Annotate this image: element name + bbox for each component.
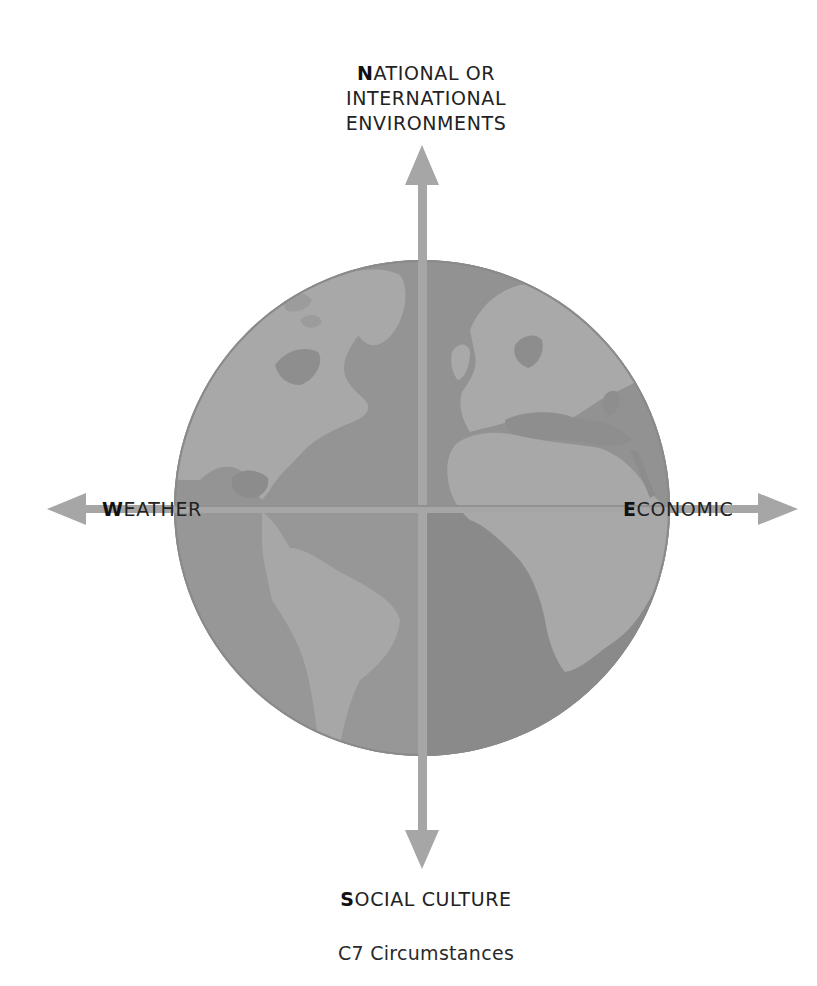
label-west-initial: W: [102, 498, 124, 520]
label-north-line1: ATIONAL OR: [373, 62, 495, 84]
arrow-down-icon: [405, 830, 439, 869]
arrow-left-icon: [47, 493, 86, 525]
label-economic: ECONOMIC: [623, 497, 733, 522]
label-north-line2: INTERNATIONAL: [0, 86, 817, 111]
label-east-initial: E: [623, 498, 637, 520]
label-west-rest: EATHER: [124, 498, 202, 520]
diagram-caption: C7 Circumstances: [0, 942, 817, 964]
label-east-rest: CONOMIC: [637, 498, 734, 520]
label-north-line3: ENVIRONMENTS: [0, 111, 817, 136]
arrow-up-icon: [405, 145, 439, 185]
arrow-right-icon: [758, 493, 798, 525]
label-social-culture: SOCIAL CULTURE: [0, 887, 817, 912]
label-north-initial: N: [357, 62, 374, 84]
label-south-initial: S: [340, 888, 354, 910]
label-south-rest: OCIAL CULTURE: [355, 888, 512, 910]
label-national-international: NATIONAL OR INTERNATIONAL ENVIRONMENTS: [0, 61, 817, 136]
circumstances-diagram: [0, 0, 817, 986]
label-weather: WEATHER: [102, 497, 202, 522]
